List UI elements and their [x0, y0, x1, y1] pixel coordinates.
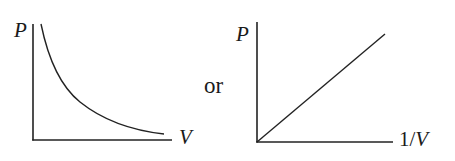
- right-x-axis-label: 1/V: [399, 129, 428, 150]
- p-vs-v-graph: [32, 24, 172, 141]
- boyles-law-figure: P V or P 1/V: [0, 0, 455, 161]
- linear-line: [257, 34, 385, 142]
- left-y-axis-label: P: [14, 20, 27, 41]
- p-vs-inverse-v-graph: [256, 22, 393, 143]
- right-x-axis-label-var: V: [415, 127, 428, 151]
- right-x-axis-label-prefix: 1/: [399, 127, 415, 151]
- graphs-svg: [0, 0, 455, 161]
- or-connector-text: or: [204, 74, 223, 97]
- right-y-axis-label: P: [236, 24, 249, 45]
- hyperbola-curve: [41, 24, 164, 134]
- left-x-axis-label: V: [179, 127, 192, 148]
